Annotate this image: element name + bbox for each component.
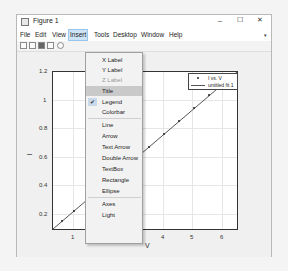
- menu-item-label: Colorbar: [102, 107, 125, 117]
- menu-item-label: Double Arrow: [102, 153, 138, 163]
- checkmark-icon: ✔: [88, 98, 97, 106]
- menu-item-label: Rectangle: [102, 175, 129, 185]
- figure-window: Figure 1 – ☐ ✕ File Edit View Insert Too…: [16, 14, 272, 257]
- title-bar[interactable]: Figure 1 – ☐ ✕: [17, 15, 271, 29]
- menu-item-line[interactable]: Line: [86, 120, 142, 130]
- menu-item-label: Arrow: [102, 131, 118, 141]
- legend-entry: untitled fit 1: [191, 82, 237, 89]
- dot-marker-icon: [191, 75, 205, 82]
- menu-insert[interactable]: Insert: [69, 30, 87, 40]
- y-axis-label[interactable]: I: [26, 154, 33, 156]
- menu-item-x-label[interactable]: X Label: [86, 55, 142, 65]
- xtick-label: 6: [220, 234, 223, 240]
- matlab-figure-icon: [21, 18, 29, 26]
- menu-file[interactable]: File: [20, 31, 30, 38]
- menu-item-label: Z Label: [102, 75, 122, 85]
- window-title: Figure 1: [33, 17, 59, 24]
- legend[interactable]: I vs. V untitled fit 1: [188, 73, 238, 90]
- menu-window[interactable]: Window: [141, 31, 164, 38]
- maximize-button[interactable]: ☐: [233, 16, 247, 24]
- toolbar: [17, 41, 271, 52]
- menu-item-y-label[interactable]: Y Label: [86, 65, 142, 75]
- ytick-label: 0.8: [39, 125, 47, 131]
- ytick-label: 1: [43, 97, 46, 103]
- menu-item-label: Y Label: [102, 65, 122, 75]
- menu-item-arrow[interactable]: Arrow: [86, 131, 142, 141]
- menu-item-colorbar[interactable]: Colorbar: [86, 107, 142, 117]
- legend-label: untitled fit 1: [208, 82, 234, 88]
- menu-item-z-label: Z Label: [86, 75, 142, 85]
- xtick-label: 1: [71, 234, 74, 240]
- dock-arrow-icon[interactable]: ▾: [264, 32, 267, 38]
- menu-item-rectangle[interactable]: Rectangle: [86, 175, 142, 185]
- menu-item-label: Text Arrow: [102, 142, 130, 152]
- x-axis-label[interactable]: V: [145, 242, 150, 249]
- xtick-label: 4: [161, 234, 164, 240]
- menu-item-label: Title: [102, 86, 113, 96]
- menu-item-text-arrow[interactable]: Text Arrow: [86, 142, 142, 152]
- menu-item-title[interactable]: Title: [86, 86, 142, 96]
- menu-item-legend[interactable]: ✔Legend: [86, 97, 142, 107]
- legend-entry: I vs. V: [191, 75, 237, 82]
- menu-item-label: X Label: [102, 55, 122, 65]
- menu-item-axes[interactable]: Axes: [86, 199, 142, 209]
- save-icon[interactable]: [38, 42, 45, 49]
- menu-item-textbox[interactable]: TextBox: [86, 164, 142, 174]
- menu-help[interactable]: Help: [169, 31, 182, 38]
- menu-item-label: Legend: [102, 97, 122, 107]
- ytick-label: 0.6: [39, 154, 47, 160]
- ytick-label: 1.2: [39, 68, 47, 74]
- menu-tools[interactable]: Tools: [94, 31, 109, 38]
- insert-menu: X Label Y Label Z Label Title ✔Legend Co…: [85, 52, 143, 244]
- menu-separator: [88, 197, 141, 198]
- menu-edit[interactable]: Edit: [35, 31, 46, 38]
- xtick-label: 5: [190, 234, 193, 240]
- plot-axes[interactable]: [52, 71, 238, 230]
- close-button[interactable]: ✕: [253, 16, 267, 24]
- menu-item-ellipse[interactable]: Ellipse: [86, 186, 142, 196]
- menu-item-label: Axes: [102, 199, 115, 209]
- minimize-button[interactable]: –: [213, 16, 227, 25]
- menu-item-light[interactable]: Light: [86, 210, 142, 220]
- plot-series: [53, 72, 237, 229]
- menu-separator: [88, 118, 141, 119]
- menu-item-label: Line: [102, 120, 113, 130]
- legend-label: I vs. V: [208, 75, 222, 81]
- line-marker-icon: [191, 82, 205, 89]
- print-icon[interactable]: [47, 42, 54, 49]
- menu-item-label: TextBox: [102, 164, 123, 174]
- new-figure-icon[interactable]: [20, 42, 27, 49]
- menu-item-double-arrow[interactable]: Double Arrow: [86, 153, 142, 163]
- menu-bar: File Edit View Insert Tools Desktop Wind…: [17, 29, 271, 41]
- menu-item-label: Light: [102, 210, 115, 220]
- menu-desktop[interactable]: Desktop: [113, 31, 137, 38]
- menu-item-label: Ellipse: [102, 186, 120, 196]
- menu-view[interactable]: View: [52, 31, 66, 38]
- open-icon[interactable]: [29, 42, 36, 49]
- undo-icon[interactable]: [57, 42, 64, 49]
- ytick-label: 0.4: [39, 182, 47, 188]
- ytick-label: 0.2: [39, 211, 47, 217]
